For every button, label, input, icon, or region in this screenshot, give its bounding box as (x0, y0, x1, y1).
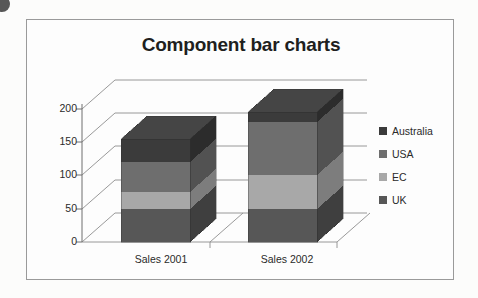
y-tick-label-100: 100 (41, 168, 77, 180)
bar-segment-uk (248, 209, 317, 242)
legend-item-australia[interactable]: Australia (379, 120, 455, 142)
scan-artifact-mark (0, 0, 10, 12)
x-tick-label-sales-2001: Sales 2001 (111, 253, 211, 265)
legend-item-usa[interactable]: USA (379, 143, 455, 165)
bar-segment-usa (121, 162, 190, 192)
bar-segment-ec (248, 175, 317, 209)
bar-sales-2001 (121, 116, 216, 242)
legend-label-ec: EC (392, 171, 407, 183)
legend-label-australia: Australia (392, 125, 433, 137)
bar-segment-usa (248, 122, 317, 175)
legend-swatch-ec (379, 173, 387, 181)
page-canvas: Component bar charts (0, 0, 478, 298)
legend-item-ec[interactable]: EC (379, 166, 455, 188)
legend-swatch-australia (379, 127, 387, 135)
y-tick-label-150: 150 (41, 135, 77, 147)
legend-label-usa: USA (392, 148, 414, 160)
bar-segment-australia (121, 139, 190, 162)
x-tick-label-sales-2002: Sales 2002 (237, 253, 337, 265)
legend-label-uk: UK (392, 194, 407, 206)
bar-segment-uk (121, 209, 190, 242)
y-tick-label-50: 50 (41, 202, 77, 214)
legend-swatch-uk (379, 196, 387, 204)
y-tick-label-200: 200 (41, 102, 77, 114)
y-axis-labels: 200 150 100 50 0 (33, 20, 77, 281)
bar-segment-ec (121, 192, 190, 209)
legend-swatch-usa (379, 150, 387, 158)
bar-sales-2002 (248, 89, 343, 242)
x-axis-ticks (210, 242, 337, 248)
legend-item-uk[interactable]: UK (379, 189, 455, 211)
chart-frame: Component bar charts (26, 19, 454, 280)
bar-segment-australia (248, 112, 317, 122)
y-tick-label-0: 0 (41, 235, 77, 247)
chart-legend: Australia USA EC UK (379, 120, 455, 212)
